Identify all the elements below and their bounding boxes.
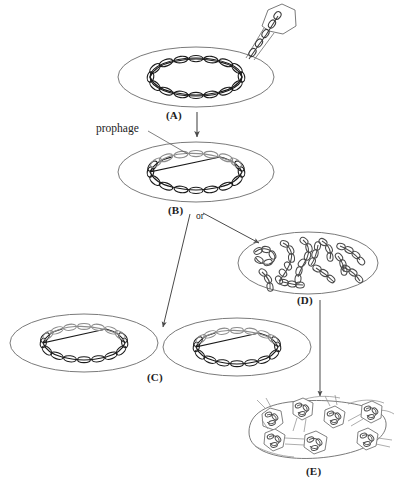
daughter-cell-left-c <box>10 314 158 372</box>
phage-particle-e-3 <box>324 395 345 428</box>
panel-b-group <box>118 131 274 202</box>
phage-particle-e-4 <box>348 401 382 426</box>
phage-tail-e-2 <box>293 418 306 432</box>
panel-d-group <box>238 232 378 294</box>
figure-root: (A) prophage (B) or (C) (D) (E) <box>0 0 397 488</box>
panel-c-group <box>10 314 311 376</box>
arrow-b-to-d <box>203 213 259 243</box>
chromosome-c-left <box>39 323 129 362</box>
replicating-dna-d <box>253 236 366 292</box>
cell-membrane-c-right <box>163 318 311 376</box>
panel-label-e: (E) <box>306 465 321 477</box>
panel-label-d: (D) <box>297 294 313 306</box>
daughter-cell-right-c <box>163 318 311 376</box>
cell-membrane-c-left <box>10 314 158 372</box>
phage-particle-e-5 <box>357 428 392 450</box>
chromosome-b <box>146 150 246 193</box>
prophage-label: prophage <box>96 122 139 134</box>
phage-particle-e-1 <box>257 398 283 430</box>
phage-particle-a <box>246 4 296 60</box>
panel-a-group <box>118 4 296 107</box>
panel-e-group <box>249 395 394 458</box>
panel-label-b: (B) <box>168 204 183 216</box>
panel-label-c: (C) <box>147 371 163 383</box>
chromosome-c-right <box>192 327 282 366</box>
phage-capsid-e-2 <box>293 398 313 420</box>
arrow-b-to-c <box>163 214 190 327</box>
phage-tail-e-6 <box>285 438 304 445</box>
phage-capsid-e-1 <box>262 408 283 430</box>
phage-particle-e-6 <box>285 431 327 454</box>
panel-label-a: (A) <box>166 109 182 121</box>
or-label: or <box>196 211 204 221</box>
phage-particle-e-2 <box>293 398 313 432</box>
chromosome-a <box>146 55 245 98</box>
diagram-canvas <box>0 0 397 488</box>
